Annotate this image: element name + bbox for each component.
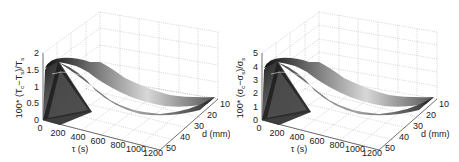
- d-axis-label: d (mm): [202, 129, 230, 139]
- surface-plot-stress: 0 1 2 3 4 5 100* (σc−σs)/σs 0 200 400 60…: [229, 0, 459, 162]
- svg-text:100* (Tc−Ts)/Ts: 100* (Tc−Ts)/Ts: [14, 58, 25, 118]
- svg-text:100* (σc−σs)/σs: 100* (σc−σs)/σs: [235, 58, 246, 118]
- svg-text:50: 50: [385, 143, 395, 153]
- tau-axis-ticks: 0 200 400 600 800 1000 1200: [256, 123, 382, 158]
- z-axis-ticks: 0 1 2 3 4 5: [253, 48, 258, 125]
- svg-text:3: 3: [253, 75, 258, 85]
- z-axis-label: 100* (Tc−Ts)/Ts: [14, 58, 25, 118]
- tau-axis-ticks: 0 200 400 600 800 1000 1200: [37, 123, 163, 158]
- svg-text:40: 40: [399, 132, 409, 142]
- svg-text:1: 1: [34, 82, 39, 92]
- svg-text:600: 600: [90, 136, 105, 146]
- svg-text:600: 600: [309, 136, 324, 146]
- svg-text:1200: 1200: [362, 148, 382, 158]
- svg-text:0: 0: [256, 123, 261, 133]
- svg-text:5: 5: [253, 48, 258, 58]
- plot-canvas: 0 0.5 1 1.5 2 100* (Tc−Ts)/Ts 0 200 400 …: [0, 0, 230, 162]
- svg-text:4: 4: [253, 62, 258, 72]
- svg-text:1200: 1200: [143, 148, 163, 158]
- svg-text:2: 2: [253, 88, 258, 98]
- svg-text:1: 1: [253, 102, 258, 112]
- surface-plot-temperature: 0 0.5 1 1.5 2 100* (Tc−Ts)/Ts 0 200 400 …: [0, 0, 230, 162]
- d-axis-label: d (mm): [421, 129, 450, 139]
- svg-text:800: 800: [329, 140, 344, 150]
- svg-text:200: 200: [50, 128, 65, 138]
- svg-text:20: 20: [426, 110, 436, 120]
- svg-text:200: 200: [269, 128, 284, 138]
- svg-text:40: 40: [180, 132, 190, 142]
- plot-canvas: 0 1 2 3 4 5 100* (σc−σs)/σs 0 200 400 60…: [229, 0, 459, 162]
- svg-text:20: 20: [207, 110, 217, 120]
- svg-text:800: 800: [110, 140, 125, 150]
- svg-text:0: 0: [37, 123, 42, 133]
- z-axis-ticks: 0 0.5 1 1.5 2: [26, 48, 39, 125]
- svg-text:1.5: 1.5: [26, 65, 39, 75]
- svg-text:10: 10: [439, 99, 449, 109]
- z-axis-label: 100* (σc−σs)/σs: [235, 58, 246, 118]
- tau-axis-label: τ (s): [291, 144, 308, 154]
- svg-text:0.5: 0.5: [26, 98, 39, 108]
- tau-axis-label: τ (s): [72, 144, 89, 154]
- svg-text:400: 400: [289, 132, 304, 142]
- svg-text:50: 50: [166, 143, 176, 153]
- svg-text:2: 2: [34, 48, 39, 58]
- svg-text:400: 400: [70, 132, 85, 142]
